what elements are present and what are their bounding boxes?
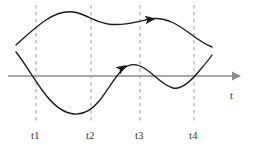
tick-label-t2: t2 <box>86 130 95 141</box>
curves-group <box>16 12 212 114</box>
lower-curve-direction-arrowhead <box>115 61 129 74</box>
tick-label-t1: t1 <box>31 130 40 141</box>
tick-label-t4: t4 <box>189 130 198 141</box>
axis-label-t: t <box>230 90 233 101</box>
time-series-trajectory-diagram: t1 t2 t3 t4 t <box>0 0 255 153</box>
lower-curve <box>16 52 212 114</box>
tick-label-t3: t3 <box>135 130 144 141</box>
upper-curve <box>16 12 212 47</box>
gridlines-group <box>36 5 194 122</box>
